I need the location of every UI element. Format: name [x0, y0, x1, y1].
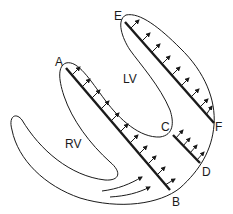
point-label-b: B: [172, 196, 180, 208]
point-label-c: C: [161, 121, 170, 133]
diagram-drawing: [0, 0, 233, 214]
point-label-f: F: [215, 121, 222, 133]
point-label-d: D: [202, 166, 211, 178]
heart-diagram: E A LV RV C F D B: [0, 0, 233, 214]
outer-wall-outline: [11, 15, 214, 205]
chamber-label-rv: RV: [65, 138, 81, 150]
arrows-c-d: [176, 130, 204, 160]
point-label-a: A: [55, 56, 63, 68]
segment-c-d: [173, 135, 200, 163]
chamber-label-lv: LV: [123, 73, 137, 85]
point-label-e: E: [114, 10, 122, 22]
